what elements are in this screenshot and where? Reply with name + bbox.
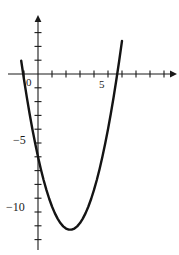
parabola-figure: 0 5 −5 −10 [0,0,179,255]
plot-canvas [0,0,179,255]
x-axis-arrow-icon [170,71,177,78]
y-tick-label-neg5: −5 [13,134,26,146]
parabola-curve [21,41,122,230]
y-tick-label-neg10: −10 [6,201,25,213]
x-tick-label-5: 5 [99,79,105,90]
x-tick-label-0: 0 [26,77,32,88]
y-axis-arrow-icon [35,15,42,22]
